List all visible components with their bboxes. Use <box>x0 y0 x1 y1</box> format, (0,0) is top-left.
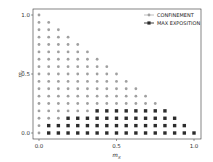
max-exposition-point <box>95 131 98 134</box>
max-exposition-point <box>124 109 127 112</box>
confinement-point <box>67 109 70 112</box>
max-exposition-point <box>124 124 127 127</box>
legend-label-confinement: CONFINEMENT <box>157 12 195 18</box>
confinement-point <box>76 109 79 112</box>
confinement-point <box>96 80 99 83</box>
confinement-point <box>86 80 89 83</box>
confinement-point <box>76 50 79 53</box>
confinement-point <box>47 95 50 98</box>
confinement-point <box>76 80 79 83</box>
max-exposition-point <box>47 124 50 127</box>
confinement-point <box>115 73 118 76</box>
max-exposition-point <box>173 117 176 120</box>
max-exposition-point <box>163 117 166 120</box>
max-exposition-point <box>154 117 157 120</box>
confinement-point <box>105 87 108 90</box>
max-exposition-point <box>163 109 166 112</box>
legend: CONFINEMENT MAX EXPOSITION <box>144 12 200 26</box>
confinement-point <box>125 95 128 98</box>
confinement-point <box>38 43 41 46</box>
confinement-point <box>47 109 50 112</box>
max-exposition-point <box>115 131 118 134</box>
confinement-point <box>154 102 157 105</box>
scatter-chart: 0.0 0.5 1.0 mS 0.0 0.5 1.0 mI CONFINEMEN… <box>0 0 213 162</box>
confinement-point <box>67 102 70 105</box>
x-tick-0: 0.0 <box>35 143 44 149</box>
confinement-point <box>96 95 99 98</box>
confinement-point <box>57 65 60 68</box>
confinement-point <box>76 95 79 98</box>
confinement-point <box>57 109 60 112</box>
max-exposition-point <box>183 131 186 134</box>
confinement-point <box>125 80 128 83</box>
confinement-point <box>67 50 70 53</box>
confinement-point <box>86 73 89 76</box>
y-tick-0: 0.0 <box>21 130 30 136</box>
confinement-point <box>86 65 89 68</box>
max-exposition-point <box>57 131 60 134</box>
confinement-point <box>67 58 70 61</box>
confinement-point <box>96 58 99 61</box>
confinement-point <box>57 58 60 61</box>
max-exposition-point <box>76 117 79 120</box>
confinement-point <box>38 14 41 17</box>
x-axis: 0.0 0.5 1.0 mS <box>35 139 199 160</box>
max-exposition-point <box>183 124 186 127</box>
max-exposition-point <box>134 124 137 127</box>
confinement-point <box>57 50 60 53</box>
confinement-point <box>47 50 50 53</box>
max-exposition-point <box>105 124 108 127</box>
confinement-point <box>38 102 41 105</box>
max-exposition-point <box>154 124 157 127</box>
confinement-point <box>47 117 50 120</box>
confinement-point <box>76 102 79 105</box>
x-tick-1: 0.5 <box>112 143 121 149</box>
confinement-point <box>115 87 118 90</box>
confinement-point <box>47 102 50 105</box>
confinement-point <box>134 87 137 90</box>
confinement-point <box>57 117 60 120</box>
confinement-point <box>115 80 118 83</box>
max-exposition-point <box>66 131 69 134</box>
confinement-point <box>47 65 50 68</box>
x-tick-2: 1.0 <box>190 143 199 149</box>
y-tick-2: 1.0 <box>21 12 30 18</box>
max-exposition-point <box>134 109 137 112</box>
confinement-point <box>38 50 41 53</box>
confinement-point <box>76 87 79 90</box>
max-exposition-point <box>95 109 98 112</box>
legend-item-max-exposition: MAX EXPOSITION <box>144 20 200 26</box>
max-exposition-point <box>144 109 147 112</box>
confinement-point <box>67 87 70 90</box>
confinement-point <box>47 28 50 31</box>
confinement-point <box>76 58 79 61</box>
max-exposition-point <box>95 124 98 127</box>
confinement-point <box>67 95 70 98</box>
confinement-point <box>96 73 99 76</box>
max-exposition-point <box>105 131 108 134</box>
x-axis-label: mS <box>112 151 121 160</box>
max-exposition-point <box>76 131 79 134</box>
confinement-point <box>67 73 70 76</box>
confinement-point <box>47 43 50 46</box>
max-exposition-point <box>163 131 166 134</box>
max-exposition-point <box>66 124 69 127</box>
max-exposition-point <box>95 117 98 120</box>
confinement-point <box>86 102 89 105</box>
confinement-point <box>105 73 108 76</box>
confinement-point <box>57 87 60 90</box>
data-points <box>38 14 196 135</box>
max-exposition-point <box>86 117 89 120</box>
max-exposition-point <box>47 131 50 134</box>
confinement-point <box>38 87 41 90</box>
confinement-point <box>57 73 60 76</box>
y-axis: 0.0 0.5 1.0 mI <box>16 12 33 136</box>
confinement-point <box>38 80 41 83</box>
max-exposition-point <box>124 117 127 120</box>
max-exposition-point <box>163 124 166 127</box>
confinement-point <box>76 43 79 46</box>
confinement-point <box>96 87 99 90</box>
max-exposition-point <box>124 131 127 134</box>
confinement-point <box>86 87 89 90</box>
max-exposition-point <box>134 131 137 134</box>
